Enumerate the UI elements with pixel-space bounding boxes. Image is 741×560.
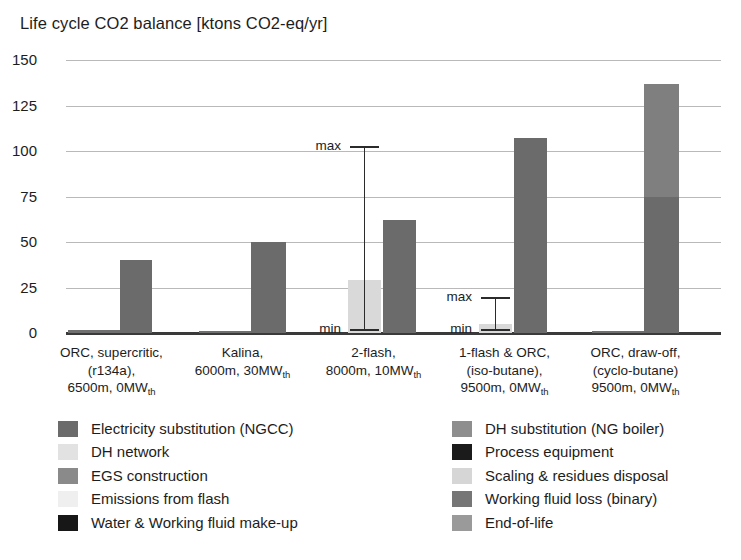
legend-swatch-icon [58, 515, 78, 531]
legend-label: Working fluid loss (binary) [485, 491, 657, 507]
x-axis-label-line: 9500m, 0MWth [558, 379, 713, 398]
bar [383, 220, 416, 333]
legend-item[interactable]: End-of-life [452, 511, 668, 535]
error-bar-label-max: max [289, 138, 341, 153]
chart-legend: Electricity substitution (NGCC)DH networ… [0, 417, 741, 547]
error-bar-label-min: min [289, 321, 341, 336]
legend-item[interactable]: EGS construction [58, 464, 298, 488]
x-axis-label-line: ORC, draw-off, [558, 344, 713, 362]
legend-swatch-icon [452, 444, 472, 460]
bar [199, 331, 251, 333]
error-bar-line [364, 146, 365, 330]
legend-label: Scaling & residues disposal [485, 468, 668, 484]
x-axis-label-line: (cyclo-butane) [558, 362, 713, 380]
legend-item[interactable]: Process equipment [452, 441, 668, 465]
y-axis-tick-label: 150 [0, 51, 37, 68]
legend-label: DH network [91, 444, 169, 460]
legend-item[interactable]: Emissions from flash [58, 488, 298, 512]
legend-item[interactable]: Scaling & residues disposal [452, 464, 668, 488]
legend-item[interactable]: Electricity substitution (NGCC) [58, 417, 298, 441]
y-axis-tick-label: 75 [0, 188, 37, 205]
legend-swatch-icon [58, 444, 78, 460]
chart-container: Life cycle CO2 balance [ktons CO2-eq/yr]… [0, 0, 741, 560]
gridline [66, 197, 721, 198]
error-bar-cap-max [481, 297, 510, 299]
legend-item[interactable]: DH substitution (NG boiler) [452, 417, 668, 441]
legend-swatch-icon [58, 491, 78, 507]
legend-item[interactable]: Water & Working fluid make-up [58, 511, 298, 535]
y-axis-tick-label: 25 [0, 279, 37, 296]
plot-area: 0255075100125150maxminmaxmin [66, 60, 721, 333]
bar [251, 242, 286, 333]
y-axis-tick-label: 0 [0, 324, 37, 341]
chart-title: Life cycle CO2 balance [ktons CO2-eq/yr] [20, 14, 328, 33]
error-bar-cap-max [350, 146, 379, 148]
x-axis-label: ORC, draw-off,(cyclo-butane)9500m, 0MWth [558, 344, 713, 398]
y-axis-tick-label: 100 [0, 142, 37, 159]
bar-segment [644, 197, 679, 334]
legend-label: Process equipment [485, 444, 613, 460]
legend-item[interactable]: DH network [58, 441, 298, 465]
y-axis-tick-label: 50 [0, 233, 37, 250]
error-bar-label-max: max [420, 289, 472, 304]
x-axis-label-line: 6500m, 0MWth [34, 379, 189, 398]
bar [592, 331, 644, 333]
gridline [66, 60, 721, 61]
bar [514, 138, 547, 333]
legend-swatch-icon [58, 421, 78, 437]
legend-label: DH substitution (NG boiler) [485, 421, 664, 437]
error-bar-cap-min [350, 329, 379, 331]
gridline [66, 151, 721, 152]
x-axis-category-labels: ORC, supercritic,(r134a),6500m, 0MWthKal… [26, 344, 736, 406]
legend-label: Emissions from flash [91, 491, 229, 507]
legend-item[interactable]: Working fluid loss (binary) [452, 488, 668, 512]
legend-label: End-of-life [485, 515, 553, 531]
legend-label: EGS construction [91, 468, 208, 484]
bar [68, 330, 120, 333]
bar [120, 260, 152, 333]
legend-swatch-icon [452, 421, 472, 437]
legend-swatch-icon [452, 491, 472, 507]
bar-segment [644, 84, 679, 197]
error-bar-cap-min [481, 329, 510, 331]
legend-label: Water & Working fluid make-up [91, 515, 298, 531]
legend-label: Electricity substitution (NGCC) [91, 421, 294, 437]
legend-column-right: DH substitution (NG boiler)Process equip… [452, 417, 668, 535]
error-bar-line [495, 297, 496, 330]
legend-column-left: Electricity substitution (NGCC)DH networ… [58, 417, 298, 535]
bar [644, 84, 679, 333]
gridline [66, 106, 721, 107]
legend-swatch-icon [58, 468, 78, 484]
y-axis-tick-label: 125 [0, 97, 37, 114]
legend-swatch-icon [452, 515, 472, 531]
legend-swatch-icon [452, 468, 472, 484]
error-bar-label-min: min [420, 321, 472, 336]
